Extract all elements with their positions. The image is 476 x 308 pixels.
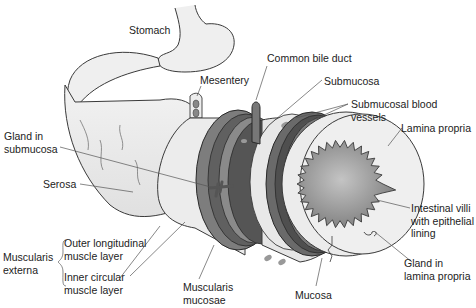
label-muscularis-externa-line2: externa <box>3 264 53 277</box>
label-muscularis-mucosae-line2: mucosae <box>183 294 233 307</box>
label-serosa: Serosa <box>43 178 76 191</box>
label-gland-in-submucosa: Gland in submucosa <box>4 130 58 155</box>
label-common-bile-duct: Common bile duct <box>267 52 352 65</box>
label-mesentery: Mesentery <box>200 74 249 87</box>
common-bile-duct-shape <box>252 102 260 144</box>
label-gland-in-submucosa-line2: submucosa <box>4 143 58 156</box>
label-outer-longitudinal-line1: Outer longitudinal <box>64 237 146 250</box>
label-submucosa: Submucosa <box>324 75 379 88</box>
label-intestinal-villi: Intestinal villi with epithelial lining <box>411 202 474 240</box>
label-lamina-propria: Lamina propria <box>401 122 471 135</box>
label-intestinal-villi-line1: Intestinal villi <box>411 202 474 215</box>
label-muscularis-externa: Muscularis externa <box>3 251 53 276</box>
label-outer-longitudinal-muscle: Outer longitudinal muscle layer <box>64 237 146 262</box>
stomach-shape <box>158 5 234 72</box>
label-intestinal-villi-line2: with epithelial <box>411 215 474 228</box>
label-inner-circular-line1: Inner circular <box>64 271 125 284</box>
label-gland-in-lamina-propria-line1: Gland in <box>404 257 471 270</box>
label-submucosal-blood-vessels: Submucosal blood vessels <box>351 98 437 123</box>
label-intestinal-villi-line3: lining <box>411 227 474 240</box>
label-muscularis-externa-line1: Muscularis <box>3 251 53 264</box>
label-inner-circular-muscle: Inner circular muscle layer <box>64 271 125 296</box>
label-muscularis-mucosae: Muscularis mucosae <box>183 281 233 306</box>
intestine-wall-diagram: Stomach Mesentery Common bile duct Submu… <box>0 0 476 308</box>
label-outer-longitudinal-line2: muscle layer <box>64 250 146 263</box>
label-muscularis-mucosae-line1: Muscularis <box>183 281 233 294</box>
label-gland-in-submucosa-line1: Gland in <box>4 130 58 143</box>
label-mucosa: Mucosa <box>295 289 332 302</box>
label-inner-circular-line2: muscle layer <box>64 284 125 297</box>
label-gland-in-lamina-propria-line2: lamina propria <box>404 270 471 283</box>
label-submucosal-blood-vessels-line1: Submucosal blood <box>351 98 437 111</box>
label-stomach: Stomach <box>129 24 170 37</box>
label-gland-in-lamina-propria: Gland in lamina propria <box>404 257 471 282</box>
